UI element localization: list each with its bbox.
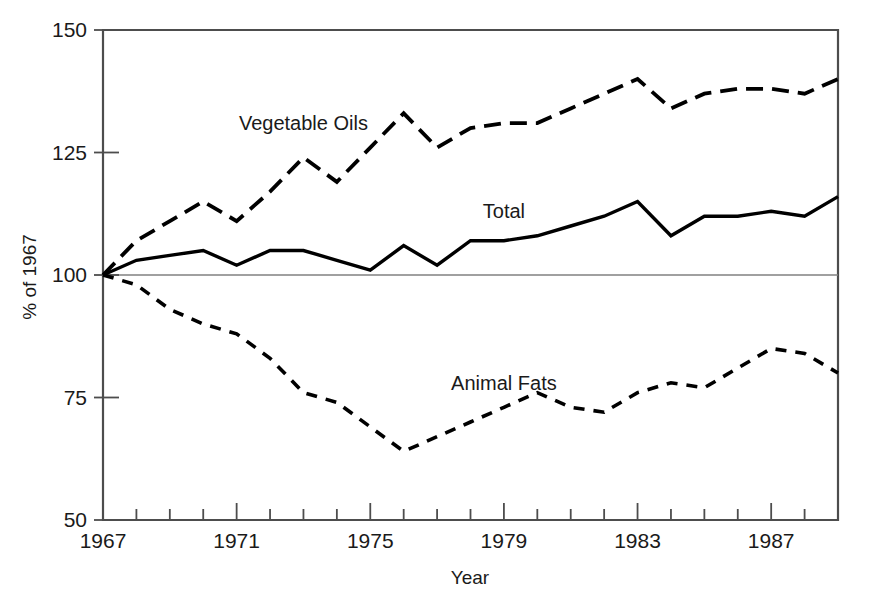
x-axis-tick-labels: 196719711975197919831987 [80,529,795,552]
x-tick-label: 1979 [481,529,528,552]
data-series-layer [103,79,838,451]
series-line-vegetable-oils [103,79,838,275]
x-axis-title: Year [451,567,490,588]
line-chart: 5075100125150 196719711975197919831987 V… [0,0,873,607]
x-axis-ticks [103,503,838,520]
series-label-vegetable-oils: Vegetable Oils [239,112,368,134]
x-tick-label: 1987 [748,529,795,552]
series-line-animal-fats [103,275,838,451]
x-tick-label: 1967 [80,529,127,552]
series-label-total: Total [483,200,525,222]
y-axis-title: % of 1967 [19,234,40,320]
x-tick-label: 1971 [213,529,260,552]
y-axis-tick-labels: 5075100125150 [52,18,87,531]
y-tick-label: 100 [52,263,87,286]
y-tick-label: 125 [52,141,87,164]
y-tick-label: 150 [52,18,87,41]
x-tick-label: 1983 [614,529,661,552]
chart-container: 5075100125150 196719711975197919831987 V… [0,0,873,607]
y-tick-label: 50 [64,508,87,531]
y-tick-label: 75 [64,386,87,409]
x-tick-label: 1975 [347,529,394,552]
series-label-animal-fats: Animal Fats [451,372,557,394]
series-annotations: Vegetable OilsTotalAnimal Fats [239,112,557,394]
